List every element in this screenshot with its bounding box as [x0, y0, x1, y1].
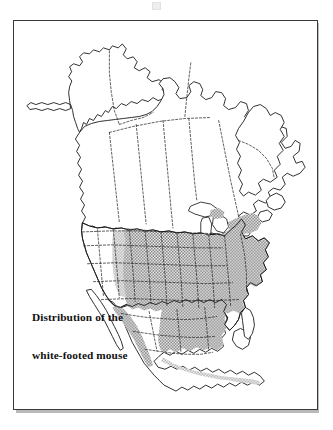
- map-plate: Distribution of the white-footed mouse: [13, 20, 318, 410]
- caption-line-1: Distribution of the: [32, 311, 128, 324]
- scan-artifact: [152, 2, 161, 10]
- figure-caption: Distribution of the white-footed mouse: [32, 286, 128, 387]
- range-mexican-plateau: [158, 303, 227, 354]
- figure-page: Distribution of the white-footed mouse: [0, 0, 333, 430]
- caption-line-2: white-footed mouse: [32, 349, 128, 362]
